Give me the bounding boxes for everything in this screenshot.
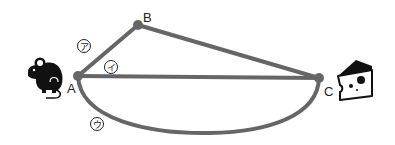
path-a-marker: ア — [78, 40, 91, 53]
svg-text:ウ: ウ — [93, 120, 102, 130]
point-a-label: A — [67, 81, 76, 96]
path-u-marker: ウ — [91, 118, 104, 131]
mouse-icon — [28, 58, 63, 99]
svg-text:イ: イ — [107, 63, 116, 73]
cheese-icon — [338, 60, 372, 100]
route-diagram: A B C ア イ ウ — [0, 0, 395, 145]
point-b-dot — [133, 20, 143, 30]
point-c-dot — [314, 73, 324, 83]
path-i-line — [78, 76, 319, 78]
point-c-label: C — [324, 84, 333, 99]
point-b-label: B — [143, 10, 152, 25]
path-u-arc — [78, 76, 319, 133]
path-i-marker: イ — [105, 61, 118, 74]
point-a-dot — [73, 71, 83, 81]
svg-text:ア: ア — [80, 42, 89, 52]
